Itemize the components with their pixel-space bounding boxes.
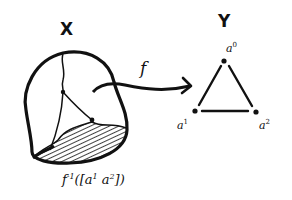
space-x-label: X — [60, 21, 73, 38]
preimage-caption: f-1([a1 a2]) — [62, 173, 125, 186]
vertex-a0-dot — [221, 58, 226, 63]
vertex-a1-label: a1 — [177, 119, 188, 131]
diagram-canvas: X Y f a0 a1 a2 f-1([a1 a2]) — [0, 0, 292, 200]
vertex-a0-label: a0 — [226, 42, 237, 54]
diagram-drawing — [0, 0, 292, 200]
vertex-a2-dot — [253, 109, 258, 114]
hatched-preimage-region — [33, 122, 127, 163]
vertex-a2-label: a2 — [259, 119, 270, 131]
space-y-triangle — [199, 66, 252, 111]
map-f-label: f — [140, 60, 146, 77]
space-y-label: Y — [218, 13, 230, 30]
internal-vertex — [61, 90, 65, 94]
internal-vertex — [90, 118, 95, 123]
vertex-a1-dot — [192, 108, 197, 113]
map-arrow — [93, 78, 191, 93]
